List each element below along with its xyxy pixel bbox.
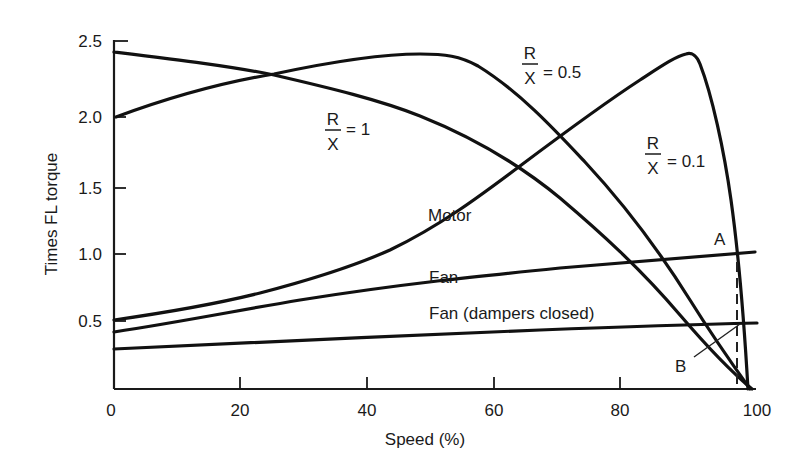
rx1-numerator: R	[327, 110, 339, 129]
y-axis-title: Times FL torque	[42, 153, 61, 276]
x-tick-label: 100	[743, 401, 771, 420]
x-tick-labels: 0 20 40 60 80 100	[106, 401, 771, 420]
label-rx-0.5: R X = 0.5	[522, 44, 581, 88]
rx01-value: = 0.1	[667, 152, 705, 171]
x-axis-title: Speed (%)	[385, 430, 465, 449]
label-fan-dampers-closed: Fan (dampers closed)	[429, 304, 594, 323]
label-fan: Fan	[429, 268, 458, 287]
x-tick-label: 80	[611, 401, 630, 420]
rx1-value: = 1	[346, 120, 370, 139]
rx05-denominator: X	[524, 69, 535, 88]
label-point-b: B	[675, 357, 686, 376]
label-rx-0.1: R X = 0.1	[645, 134, 705, 178]
torque-speed-chart: 2.5 2.0 1.5 1.0 0.5 0 20 40 60 80 100 Sp…	[0, 0, 796, 468]
y-tick-label: 0.5	[78, 312, 102, 331]
y-tick-labels: 2.5 2.0 1.5 1.0 0.5	[78, 32, 102, 331]
x-tick-label: 0	[106, 401, 115, 420]
rx1-denominator: X	[327, 135, 338, 154]
y-tick-label: 1.5	[78, 179, 102, 198]
x-tick-label: 20	[231, 401, 250, 420]
label-point-a: A	[714, 230, 726, 249]
curve-fan-dampers-closed	[114, 323, 757, 349]
rx01-numerator: R	[647, 134, 659, 153]
rx01-denominator: X	[647, 159, 658, 178]
label-rx-1: R X = 1	[325, 110, 370, 154]
x-tick-label: 60	[485, 401, 504, 420]
rx05-numerator: R	[524, 44, 536, 63]
x-tick-label: 40	[358, 401, 377, 420]
rx05-value: = 0.5	[543, 63, 581, 82]
y-tick-label: 2.5	[78, 32, 102, 51]
y-tick-label: 2.0	[78, 108, 102, 127]
label-motor: Motor	[428, 206, 472, 225]
y-tick-label: 1.0	[78, 245, 102, 264]
